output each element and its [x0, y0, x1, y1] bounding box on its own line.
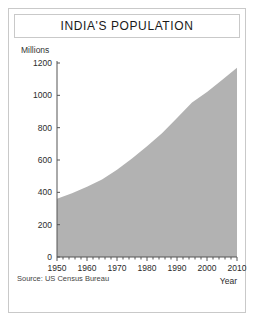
y-tick-label: 0 [47, 252, 52, 262]
x-tick-label: 1970 [108, 263, 127, 273]
x-tick-label: 1980 [138, 263, 157, 273]
y-tick-label: 800 [38, 123, 52, 133]
x-tick-label: 2010 [228, 263, 247, 273]
x-tick-label: 1950 [48, 263, 67, 273]
y-tick-label: 200 [38, 220, 52, 230]
y-tick-label: 400 [38, 187, 52, 197]
x-axis-label: Year [220, 276, 237, 286]
y-tick-label: 600 [38, 155, 52, 165]
area-series [57, 68, 237, 257]
chart-plot-area: 0200400600800100012001950196019701980199… [9, 9, 247, 314]
population-area-chart: 0200400600800100012001950196019701980199… [9, 9, 247, 314]
chart-card: INDIA'S POPULATION Millions 020040060080… [8, 8, 246, 313]
x-tick-label: 1990 [168, 263, 187, 273]
x-tick-label: 1960 [78, 263, 97, 273]
y-tick-label: 1200 [33, 58, 52, 68]
x-tick-label: 2000 [198, 263, 217, 273]
source-note: Source: US Census Bureau [17, 274, 109, 283]
y-tick-label: 1000 [33, 90, 52, 100]
